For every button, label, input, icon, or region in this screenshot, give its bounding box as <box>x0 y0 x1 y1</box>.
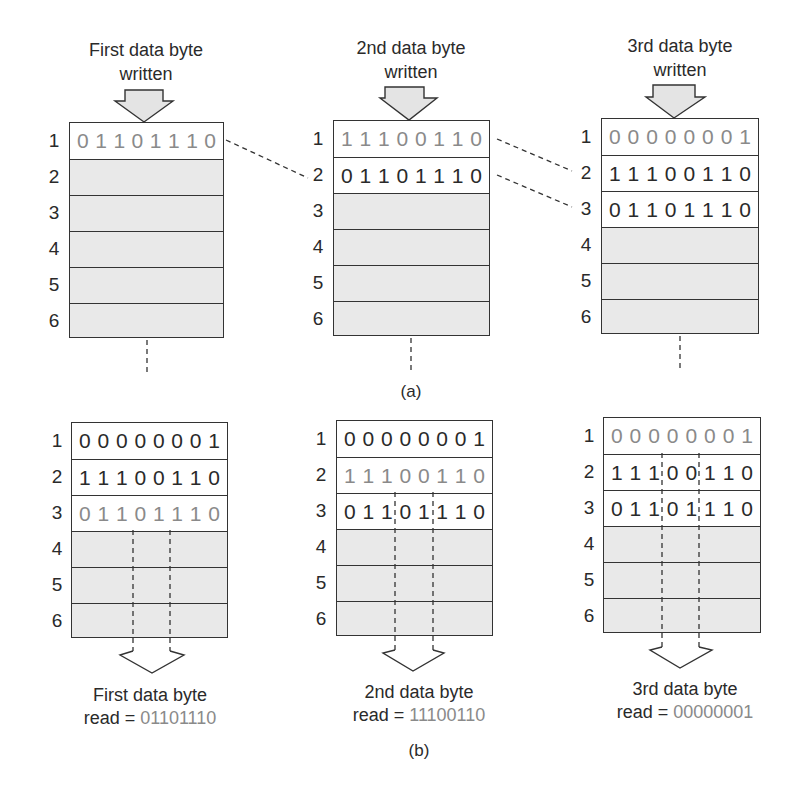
read-arrow-icon <box>120 647 712 673</box>
continuation-dashes <box>147 336 680 375</box>
shift-connector-lines <box>226 139 572 207</box>
write-arrow-icon <box>115 85 705 122</box>
diagram-overlay <box>0 0 801 794</box>
read-path-lines <box>133 453 699 651</box>
